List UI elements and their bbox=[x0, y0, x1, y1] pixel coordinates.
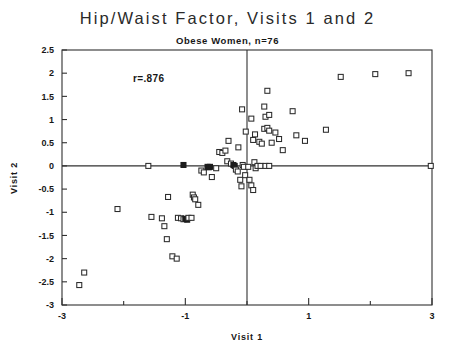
data-point bbox=[428, 163, 433, 168]
data-point bbox=[77, 283, 82, 288]
data-point bbox=[246, 164, 251, 169]
data-point bbox=[82, 270, 87, 275]
data-point bbox=[193, 197, 198, 202]
data-point bbox=[243, 129, 248, 134]
data-point bbox=[338, 74, 343, 79]
data-point bbox=[214, 166, 219, 171]
data-point bbox=[196, 202, 201, 207]
data-point bbox=[166, 194, 171, 199]
y-tick-label: 1 bbox=[49, 115, 54, 125]
data-point bbox=[247, 177, 252, 182]
y-axis-tick-labels: 2.521.510.50-0.5-1-1.5-2-2.5-3 bbox=[38, 45, 54, 310]
y-axis-tick-marks bbox=[62, 50, 67, 305]
data-point bbox=[262, 104, 267, 109]
data-point bbox=[302, 138, 307, 143]
data-point bbox=[238, 177, 243, 182]
x-tick-label: -1 bbox=[181, 311, 189, 321]
data-point bbox=[290, 109, 295, 114]
data-point bbox=[181, 162, 186, 167]
x-tick-label: 3 bbox=[429, 311, 434, 321]
data-point bbox=[189, 215, 194, 220]
data-point bbox=[259, 141, 264, 146]
x-axis-title: Visit 1 bbox=[231, 332, 263, 342]
data-point bbox=[323, 127, 328, 132]
y-tick-label: 0.5 bbox=[41, 138, 54, 148]
y-tick-label: -2 bbox=[46, 254, 54, 264]
data-point bbox=[164, 237, 169, 242]
data-point bbox=[235, 169, 240, 174]
y-tick-label: -0.5 bbox=[38, 184, 54, 194]
y-tick-label: 0 bbox=[49, 161, 54, 171]
data-point bbox=[294, 133, 299, 138]
data-point bbox=[201, 170, 206, 175]
data-point bbox=[258, 163, 263, 168]
data-point bbox=[226, 138, 231, 143]
correlation-annotation: r=.876 bbox=[133, 73, 165, 84]
data-point bbox=[373, 72, 378, 77]
data-point bbox=[162, 224, 167, 229]
correlation-label: r=.876 bbox=[133, 73, 165, 84]
y-axis-title: Visit 2 bbox=[9, 162, 19, 194]
y-tick-label: 1.5 bbox=[41, 92, 54, 102]
y-tick-label: -1 bbox=[46, 207, 54, 217]
data-point bbox=[269, 140, 274, 145]
data-point bbox=[267, 163, 272, 168]
data-point bbox=[251, 188, 256, 193]
y-tick-label: 2.5 bbox=[41, 45, 54, 55]
data-point bbox=[146, 163, 151, 168]
x-tick-label: 1 bbox=[306, 311, 311, 321]
chart-canvas: 2.521.510.50-0.5-1-1.5-2-2.5-3 -3-113 r=… bbox=[0, 0, 455, 350]
data-point bbox=[406, 71, 411, 76]
x-tick-label: -3 bbox=[58, 311, 66, 321]
y-tick-label: 2 bbox=[49, 68, 54, 78]
x-axis-tick-labels: -3-113 bbox=[58, 311, 435, 321]
data-point bbox=[253, 132, 258, 137]
scatter-plot-figure: Hip/Waist Factor, Visits 1 and 2 Obese W… bbox=[0, 0, 455, 350]
data-point bbox=[267, 112, 272, 117]
data-point bbox=[239, 184, 244, 189]
data-point bbox=[280, 148, 285, 153]
data-point bbox=[209, 175, 214, 180]
y-tick-label: -1.5 bbox=[38, 231, 54, 241]
data-point bbox=[174, 256, 179, 261]
data-point bbox=[251, 137, 256, 142]
data-point bbox=[115, 207, 120, 212]
y-tick-label: -3 bbox=[46, 300, 54, 310]
data-point bbox=[277, 137, 282, 142]
data-point bbox=[223, 148, 228, 153]
data-point bbox=[267, 128, 272, 133]
data-point-series bbox=[77, 71, 434, 288]
data-point bbox=[265, 88, 270, 93]
data-point bbox=[159, 216, 164, 221]
data-point bbox=[208, 164, 213, 169]
data-point bbox=[149, 214, 154, 219]
data-point bbox=[273, 130, 278, 135]
data-point bbox=[249, 116, 254, 121]
data-point bbox=[240, 107, 245, 112]
y-tick-label: -2.5 bbox=[38, 277, 54, 287]
data-point bbox=[236, 145, 241, 150]
